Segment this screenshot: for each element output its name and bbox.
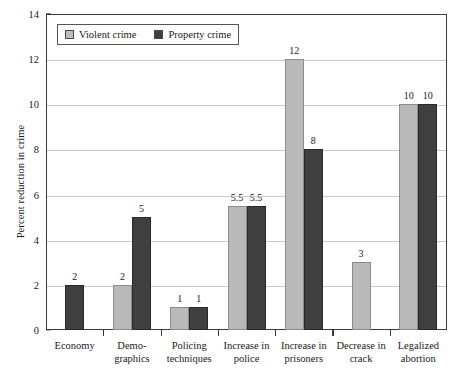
x-axis-label-3: Increase inpolice [224, 340, 270, 365]
bar-value-label: 10 [423, 90, 433, 101]
bar-value-label: 5.5 [231, 192, 244, 203]
x-axis-label-line2: abortion [398, 353, 439, 366]
x-tick-mark [390, 330, 391, 336]
bar-value-label: 1 [196, 293, 201, 304]
y-tick-label: 14 [12, 9, 39, 20]
x-axis-label-line1: Decrease in [336, 340, 385, 351]
bar-value-label: 1 [177, 293, 182, 304]
legend-entry-property-crime: Property crime [154, 29, 231, 40]
bar [285, 59, 304, 330]
bar [113, 285, 132, 330]
property-crime-swatch [154, 30, 163, 39]
x-axis-label-line2: police [224, 353, 270, 366]
y-tick-label: 0 [12, 325, 39, 336]
x-axis-label-line1: Increase in [281, 340, 327, 351]
x-axis-label-line1: Legalized [398, 340, 439, 351]
x-axis-label-4: Increase inprisoners [281, 340, 327, 365]
bar-chart: Percent reduction in crime 02468101214 2… [0, 0, 463, 386]
y-tick-label: 6 [12, 189, 39, 200]
y-tick-label: 2 [12, 279, 39, 290]
bar [352, 262, 371, 330]
bar [228, 206, 247, 330]
bar [418, 104, 437, 330]
bar-value-label: 2 [72, 271, 77, 282]
bar [189, 307, 208, 330]
legend-label: Violent crime [79, 29, 136, 40]
bar-value-label: 8 [311, 135, 316, 146]
x-tick-mark [218, 330, 219, 336]
x-axis-label-6: Legalizedabortion [398, 340, 439, 365]
x-axis-label-1: Demo-graphics [114, 340, 150, 365]
x-axis-label-line1: Demo- [117, 340, 146, 351]
x-axis-label-line2: prisoners [281, 353, 327, 366]
y-tick-label: 4 [12, 234, 39, 245]
bar-value-label: 5 [139, 203, 144, 214]
bars-layer [46, 14, 447, 330]
bar-value-label: 10 [404, 90, 414, 101]
x-axis-label-line1: Economy [55, 340, 95, 351]
y-tick-label: 12 [12, 54, 39, 65]
bar [65, 285, 84, 330]
x-axis-label-5: Decrease incrack [336, 340, 385, 365]
chart-legend: Violent crimeProperty crime [57, 24, 239, 45]
bar [170, 307, 189, 330]
bar [132, 217, 151, 330]
x-axis-label-2: Policingtechniques [167, 340, 212, 365]
legend-entry-violent-crime: Violent crime [65, 29, 136, 40]
bar-value-label: 12 [289, 45, 299, 56]
bar [399, 104, 418, 330]
x-axis-label-line1: Policing [172, 340, 207, 351]
x-axis-label-0: Economy [55, 340, 95, 353]
bar [304, 149, 323, 330]
y-axis-title: Percent reduction in crime [15, 82, 26, 282]
bar-value-label: 2 [120, 271, 125, 282]
bar-value-label: 3 [359, 248, 364, 259]
bar-value-label: 5.5 [250, 192, 263, 203]
x-tick-mark [103, 330, 104, 336]
legend-label: Property crime [168, 29, 231, 40]
bar [247, 206, 266, 330]
y-tick-label: 10 [12, 99, 39, 110]
x-tick-mark [161, 330, 162, 336]
violent-crime-swatch [65, 30, 74, 39]
x-tick-mark [275, 330, 276, 336]
x-tick-mark [332, 330, 333, 336]
x-axis-label-line1: Increase in [224, 340, 270, 351]
y-tick-label: 8 [12, 144, 39, 155]
x-axis-label-line2: crack [336, 353, 385, 366]
x-axis-label-line2: techniques [167, 353, 212, 366]
x-axis-label-line2: graphics [114, 353, 150, 366]
